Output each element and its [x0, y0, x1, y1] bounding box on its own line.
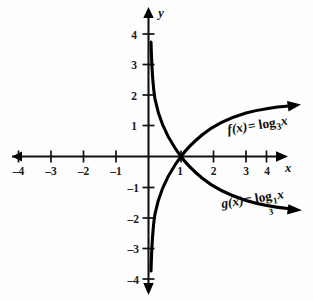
y-tick-label-2: 2 — [131, 90, 137, 102]
curve-f-label-equals: = — [247, 118, 257, 134]
graph-canvas: –4 –3 –2 –1 1 2 3 4 4 3 2 1 –1 –2 –3 –4 … — [0, 0, 313, 301]
x-tick-label-neg2: –2 — [77, 165, 90, 177]
curve-g-label-fx: g(x) — [219, 193, 244, 211]
x-axis-arrow-left — [12, 152, 22, 162]
log-functions-figure: –4 –3 –2 –1 1 2 3 4 4 3 2 1 –1 –2 –3 –4 … — [0, 0, 313, 301]
svg-text:g(x)=log1x: g(x)=log1x — [219, 186, 285, 214]
x-tick-labels: –4 –3 –2 –1 1 2 3 4 — [12, 165, 270, 177]
x-tick-label-2: 2 — [211, 165, 217, 177]
y-tick-label-neg1: –1 — [127, 182, 140, 194]
x-tick-label-neg3: –3 — [44, 165, 57, 177]
curve-f-label-log: log — [257, 114, 277, 132]
y-axis-arrow-bottom — [143, 283, 153, 295]
curve-g-label-log: log — [254, 188, 274, 206]
y-axis-arrow-top — [143, 7, 153, 18]
curve-f-arrow — [287, 101, 301, 111]
curve-g-label: g(x)=log1x 3 — [219, 186, 287, 224]
x-tick-label-neg1: –1 — [109, 165, 122, 177]
curve-f-label-fx: f(x) — [226, 119, 248, 137]
y-tick-label-1: 1 — [131, 120, 137, 132]
y-tick-label-neg2: –2 — [127, 213, 140, 225]
y-tick-label-neg3: –3 — [127, 243, 140, 255]
x-tick-label-1: 1 — [177, 165, 183, 177]
x-tick-label-4: 4 — [264, 165, 270, 177]
y-tick-label-3: 3 — [131, 59, 137, 71]
curve-g-label-equals: = — [243, 191, 253, 207]
y-tick-label-4: 4 — [131, 29, 137, 41]
x-axis-name: x — [284, 161, 291, 175]
y-tick-label-neg4: –4 — [127, 274, 140, 286]
x-tick-label-neg4: –4 — [12, 165, 25, 177]
curve-g-arrow — [287, 204, 302, 214]
x-tick-label-3: 3 — [243, 165, 249, 177]
y-axis-name: y — [156, 6, 164, 20]
